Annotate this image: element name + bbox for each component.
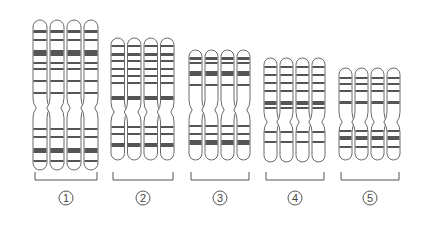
pair-label-1: 1 (59, 191, 73, 205)
chromosome-band (206, 57, 218, 60)
chromosome-band (313, 141, 325, 143)
chromosome-band (68, 92, 81, 94)
chromosome-band (128, 60, 141, 62)
chromosome-band (265, 66, 277, 68)
chromosome-band (34, 148, 47, 153)
chromosome-band (51, 128, 64, 130)
chromosome-band (85, 128, 98, 130)
chromosome-band (388, 130, 400, 132)
chromosome-band (51, 39, 64, 41)
chromosome-band (161, 68, 174, 70)
chromatid (277, 58, 293, 162)
chromosome-band (68, 148, 81, 153)
chromosome-band (34, 39, 47, 41)
chromosome-band (206, 62, 218, 64)
chromosome-band (161, 96, 174, 100)
chromosome (144, 38, 174, 160)
chromatid (81, 20, 98, 170)
chromosome-band (356, 130, 368, 132)
chromosome-band (222, 84, 234, 86)
chromosome-band (68, 160, 81, 162)
pair-label-3: 3 (213, 191, 227, 205)
chromosome-band (340, 146, 352, 148)
chromosome-band (222, 71, 234, 76)
chromosome-band (112, 45, 125, 47)
chromosome-band (51, 92, 64, 94)
svg-text:5: 5 (367, 192, 373, 204)
chromosome-band (68, 30, 81, 33)
chromosome-band (297, 131, 309, 133)
chromosome (221, 50, 250, 160)
chromosome-band (112, 82, 125, 84)
chromosome-band (206, 84, 218, 86)
chromosome-band (297, 101, 309, 105)
chromosome-band (265, 90, 277, 92)
chromosome-band (297, 141, 309, 143)
chromosome-band (265, 131, 277, 133)
chromosome-band (265, 107, 277, 109)
chromosome-band (372, 101, 384, 104)
chromosome-band (372, 130, 384, 132)
chromosome-band (128, 75, 141, 77)
chromosome-band (34, 30, 47, 33)
pair-label-2: 2 (136, 191, 150, 205)
chromosome-band (112, 68, 125, 70)
chromosome-band (190, 133, 202, 135)
chromosome-band (388, 77, 400, 79)
chromosome-band (51, 30, 64, 33)
chromosome (33, 20, 64, 170)
chromosome-band (34, 92, 47, 94)
pair-bracket (191, 172, 249, 180)
chromosome-band (145, 45, 158, 47)
chromosome-band (68, 50, 81, 56)
chromosome-band (356, 136, 368, 140)
chromosome-band (145, 53, 158, 56)
chromosome-band (51, 62, 64, 64)
chromosome-band (112, 143, 125, 147)
chromosome-band (145, 82, 158, 84)
chromatid (296, 58, 312, 162)
chromosome-band (356, 146, 368, 148)
chromosome-band (388, 146, 400, 148)
chromosome-band (297, 74, 309, 76)
chromosome (296, 58, 325, 162)
pair-bracket (341, 172, 399, 180)
chromosome-band (128, 45, 141, 47)
chromosome-band (161, 133, 174, 135)
chromosome-band (112, 53, 125, 56)
chromosome-band (85, 80, 98, 82)
chromosome-band (281, 66, 293, 68)
chromosome-band (372, 146, 384, 148)
chromosome (189, 50, 218, 160)
chromosome-band (34, 50, 47, 56)
chromosome-band (85, 160, 98, 162)
chromosome-band (85, 39, 98, 41)
chromosome-band (372, 90, 384, 92)
chromosome-band (340, 101, 352, 104)
chromosome-band (297, 90, 309, 92)
chromosome-pair-4: 4 (264, 58, 325, 205)
chromosome-band (85, 136, 98, 138)
chromosome-band (313, 90, 325, 92)
chromosome-band (34, 68, 47, 70)
chromosome-band (68, 128, 81, 130)
chromosome-band (85, 30, 98, 33)
chromosome-band (190, 84, 202, 86)
chromosome-band (51, 160, 64, 162)
chromosome-band (388, 136, 400, 140)
chromosome-band (128, 82, 141, 84)
pair-label-4: 4 (288, 191, 302, 205)
chromosome-band (206, 71, 218, 76)
chromosome-band (68, 62, 81, 64)
chromosome (371, 68, 400, 160)
chromosome-band (356, 101, 368, 104)
chromatid (33, 20, 50, 170)
chromosome-band (340, 77, 352, 79)
chromosome-band (265, 141, 277, 143)
chromosome-band (372, 83, 384, 85)
chromosome-band (34, 80, 47, 82)
chromosome-band (281, 90, 293, 92)
chromatid (67, 20, 84, 170)
chromosome-band (265, 101, 277, 105)
chromosome-band (128, 126, 141, 128)
